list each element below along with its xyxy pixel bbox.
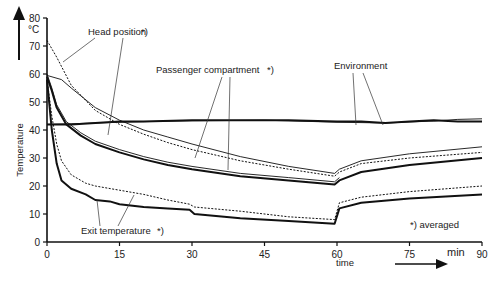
x-unit-label: min bbox=[447, 246, 465, 258]
annotation-head-marker: *) bbox=[141, 26, 148, 37]
x-tick-label: 15 bbox=[114, 249, 126, 260]
series-layer bbox=[47, 40, 482, 223]
series-line bbox=[47, 80, 482, 224]
x-tick-label: 30 bbox=[186, 249, 198, 260]
y-tick-label: 30 bbox=[29, 153, 41, 164]
y-tick-label: 10 bbox=[29, 209, 41, 220]
series-line bbox=[47, 75, 482, 173]
temperature-chart: 010203040506070800153045607590 °C Temper… bbox=[0, 0, 502, 281]
x-axis-arrow-icon bbox=[395, 259, 448, 269]
y-tick-label: 70 bbox=[29, 41, 41, 52]
x-tick-label: 0 bbox=[44, 249, 50, 260]
annotation-head-position: Head position bbox=[88, 26, 146, 37]
y-tick-label: 0 bbox=[34, 237, 40, 248]
series-line bbox=[47, 77, 482, 185]
annotation-exit-temperature: Exit temperature bbox=[81, 225, 151, 236]
x-tick-label: 45 bbox=[259, 249, 271, 260]
y-tick-label: 50 bbox=[29, 97, 41, 108]
annotation-passenger: Passenger compartment bbox=[156, 64, 260, 75]
y-tick-label: 40 bbox=[29, 125, 41, 136]
y-tick-label: 20 bbox=[29, 181, 41, 192]
y-axis-title: Temperature bbox=[14, 123, 25, 176]
y-axis-arrow-icon bbox=[13, 6, 25, 60]
annotation-exit-marker: *) bbox=[157, 225, 164, 236]
x-tick-label: 75 bbox=[404, 249, 416, 260]
y-tick-label: 60 bbox=[29, 69, 41, 80]
y-unit-label: °C bbox=[28, 24, 39, 35]
y-tick-label: 80 bbox=[29, 13, 41, 24]
annotation-environment: Environment bbox=[334, 60, 388, 71]
annotation-passenger-marker: *) bbox=[267, 64, 274, 75]
series-line bbox=[47, 74, 339, 182]
x-tick-label: 90 bbox=[476, 249, 488, 260]
footnote-averaged: *) averaged bbox=[410, 219, 459, 230]
x-axis-title: time bbox=[336, 257, 354, 268]
